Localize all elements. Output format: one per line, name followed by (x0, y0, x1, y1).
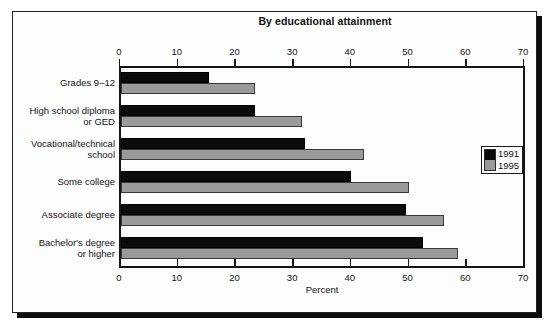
bar-1991 (121, 105, 255, 116)
bottom-tick-label: 60 (460, 272, 471, 283)
bar-1991 (121, 204, 407, 215)
category-label: Associate degree (19, 209, 115, 221)
top-tick-label: 40 (345, 46, 356, 57)
bar-1991 (121, 237, 423, 248)
top-tick-label: 10 (171, 46, 182, 57)
category-label-line: Some college (19, 176, 115, 188)
chart-title-wrapper: By educational attainment (119, 15, 531, 27)
category-label: High school diplomaor GED (19, 105, 115, 128)
category-label-line: school (19, 149, 115, 161)
bar-1995 (121, 83, 255, 94)
chart-page: By educational attainment Grades 9–12Hig… (0, 0, 553, 328)
top-tick-label: 50 (402, 46, 413, 57)
top-tick-label: 0 (116, 46, 121, 57)
top-tick-mark (408, 59, 409, 67)
legend-label-1995: 1995 (498, 161, 519, 172)
bottom-tick-label: 20 (229, 272, 240, 283)
bar-1995 (121, 149, 365, 160)
bar-group (121, 167, 525, 200)
legend-swatch-1995 (485, 160, 495, 170)
bar-1995 (121, 248, 458, 259)
top-tick-mark (465, 59, 466, 67)
category-label-line: or higher (19, 248, 115, 260)
chart-title: By educational attainment (119, 15, 531, 27)
top-tick-label: 30 (287, 46, 298, 57)
bars-layer (121, 68, 525, 266)
bar-group (121, 134, 525, 167)
bar-group (121, 200, 525, 233)
category-label-line: or GED (19, 116, 115, 128)
top-tick-mark (119, 59, 120, 67)
legend-labels: 1991 1995 (498, 149, 519, 171)
figure-frame: By educational attainment Grades 9–12Hig… (12, 11, 537, 313)
category-label: Some college (19, 176, 115, 188)
x-axis-title: Percent (119, 284, 525, 295)
legend-label-1991: 1991 (498, 149, 519, 160)
bottom-tick-label: 40 (345, 272, 356, 283)
bottom-tick-label: 30 (287, 272, 298, 283)
top-tick-mark (350, 59, 351, 67)
category-label: Bachelor's degreeor higher (19, 237, 115, 260)
bottom-tick-label: 70 (518, 272, 529, 283)
category-label-line: Associate degree (19, 209, 115, 221)
bar-group (121, 68, 525, 101)
top-tick-mark (292, 59, 293, 67)
bar-1991 (121, 72, 209, 83)
category-label-line: Grades 9–12 (19, 77, 115, 89)
bar-1995 (121, 182, 410, 193)
legend-swatch-1991 (485, 150, 495, 160)
top-tick-label: 70 (518, 46, 529, 57)
bar-1995 (121, 116, 302, 127)
bar-group (121, 233, 525, 266)
category-label: Grades 9–12 (19, 77, 115, 89)
category-label-line: Vocational/technical (19, 138, 115, 150)
bar-1991 (121, 138, 306, 149)
top-tick-mark (234, 59, 235, 67)
bottom-axis-line (119, 266, 525, 268)
chart-legend: 1991 1995 (481, 146, 523, 174)
top-tick-label: 20 (229, 46, 240, 57)
top-tick-mark (177, 59, 178, 67)
bar-group (121, 101, 525, 134)
category-label-line: High school diploma (19, 105, 115, 117)
bottom-tick-label: 10 (171, 272, 182, 283)
bottom-tick-label: 0 (116, 272, 121, 283)
top-tick-mark (523, 59, 524, 67)
legend-swatches (484, 149, 496, 171)
bar-1991 (121, 171, 352, 182)
bottom-tick-label: 50 (402, 272, 413, 283)
category-label-line: Bachelor's degree (19, 237, 115, 249)
plot-area: 010203040506070 010203040506070 (119, 48, 525, 268)
category-label: Vocational/technicalschool (19, 138, 115, 161)
top-tick-label: 60 (460, 46, 471, 57)
bar-1995 (121, 215, 444, 226)
